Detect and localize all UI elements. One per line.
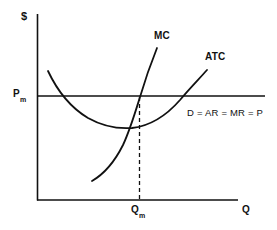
quantity-monopoly-subscript: m [139, 212, 145, 219]
price-monopoly-letter: P [13, 88, 20, 99]
y-axis-label: $ [21, 11, 27, 22]
atc-curve [48, 70, 207, 128]
quantity-monopoly-letter: Q [131, 204, 139, 215]
diagram-canvas: $ Pm MC ATC D = AR = MR = P Qm Q [0, 0, 277, 230]
atc-curve-label: ATC [205, 52, 225, 62]
mc-curve [92, 48, 157, 181]
price-monopoly-subscript: m [20, 96, 26, 103]
demand-line-label: D = AR = MR = P [187, 108, 263, 118]
x-axis-label: Q [242, 205, 250, 215]
mc-curve-label: MC [154, 31, 170, 41]
price-monopoly-label: Pm [13, 89, 26, 101]
quantity-monopoly-label: Qm [131, 205, 145, 217]
